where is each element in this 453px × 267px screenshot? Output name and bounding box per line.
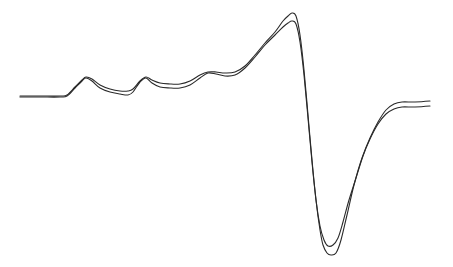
chart-background <box>0 0 453 267</box>
line-chart <box>0 0 453 267</box>
